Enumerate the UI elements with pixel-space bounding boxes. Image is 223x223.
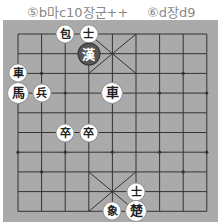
star-point: [111, 151, 114, 154]
star-point: [158, 151, 161, 154]
star-point: [16, 151, 19, 154]
janggi-board[interactable]: 包士漢車馬兵車卒卒士象楚: [3, 20, 218, 222]
move-caption: ⑤b마c10장군++ ⑥d장d9: [0, 2, 223, 20]
piece-green[interactable]: 卒: [57, 124, 74, 141]
move-5-text: ⑤b마c10장군++: [27, 2, 128, 21]
star-point: [64, 151, 67, 154]
star-point: [40, 72, 43, 75]
move-6-text: ⑥d장d9: [147, 2, 195, 21]
piece-green[interactable]: 包: [57, 26, 74, 43]
star-point: [205, 151, 208, 154]
piece-green[interactable]: 馬: [8, 83, 28, 103]
piece-green[interactable]: 兵: [33, 85, 50, 102]
piece-green[interactable]: 象: [104, 203, 121, 220]
star-point: [64, 92, 67, 95]
piece-green-general[interactable]: 楚: [126, 201, 146, 221]
piece-green[interactable]: 車: [10, 65, 27, 82]
piece-green[interactable]: 士: [128, 183, 145, 200]
star-point: [205, 92, 208, 95]
star-point: [158, 92, 161, 95]
piece-green[interactable]: 士: [80, 26, 97, 43]
piece-green[interactable]: 卒: [80, 124, 97, 141]
piece-red-general[interactable]: 漢: [78, 43, 99, 64]
star-point: [40, 170, 43, 173]
piece-red[interactable]: 車: [102, 83, 122, 103]
star-point: [182, 72, 185, 75]
star-point: [182, 170, 185, 173]
board-grid: [3, 20, 218, 222]
